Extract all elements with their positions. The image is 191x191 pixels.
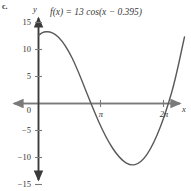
x-tick-label-2pi: 2π (154, 110, 174, 119)
y-tick-label-10: 10 (9, 45, 31, 54)
x-axis-label: x (182, 105, 186, 114)
x-tick-label-pi: π (91, 110, 111, 119)
graph-figure: c. f(x) = 13 cos(x − 0.395) (0, 0, 191, 191)
coordinate-plot (0, 0, 191, 191)
y-tick-label-minus10: −10 (9, 153, 31, 162)
y-tick-label-0: 0 (9, 106, 31, 115)
y-tick-label-5: 5 (9, 72, 31, 81)
cosine-curve (39, 32, 185, 165)
y-tick-label-minus5: −5 (9, 126, 31, 135)
y-tick-label-minus15: −15 (9, 180, 31, 189)
y-axis-label: y (33, 5, 37, 14)
y-tick-label-15: 15 (9, 18, 31, 27)
